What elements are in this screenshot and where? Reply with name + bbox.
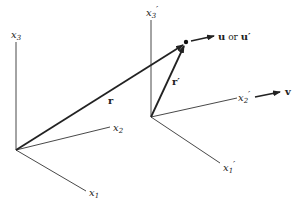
unprimed-axes: [16, 42, 110, 191]
u-velocity-arrow: [191, 36, 214, 41]
r-label: r: [108, 95, 114, 106]
x3-label: x3: [11, 29, 22, 42]
r-prime-label: r′: [172, 76, 180, 87]
v-label: v: [284, 86, 292, 97]
u-or-u-prime-label: u or u′: [218, 31, 251, 42]
x2-axis: [16, 127, 110, 150]
r-vector-arrow: [16, 45, 183, 150]
particle-point: [184, 40, 188, 44]
reference-frames-diagram: x3 x2 x1 r x3′ x2′ x1′ r′ u or u′ v: [0, 0, 299, 208]
x1-prime-axis: [151, 117, 220, 163]
x3-prime-label: x3′: [146, 4, 159, 20]
x1-label: x1: [89, 187, 99, 200]
x2-prime-axis: [151, 98, 237, 117]
x1-prime-label: x1′: [223, 159, 236, 175]
x2-prime-label: x2′: [238, 89, 251, 105]
x1-axis: [16, 150, 86, 191]
v-velocity-arrow: [255, 92, 280, 97]
x2-label: x2: [113, 122, 124, 135]
